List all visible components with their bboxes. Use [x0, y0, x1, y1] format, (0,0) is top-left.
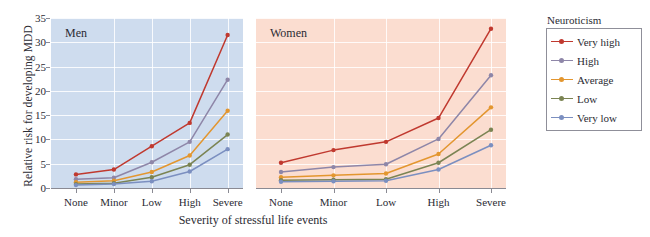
y-tick-mark [46, 115, 50, 116]
y-tick-label: 30 [24, 37, 46, 48]
legend-swatch-icon [551, 75, 573, 85]
series-point [331, 173, 335, 177]
legend-title: Neuroticism [547, 14, 601, 26]
plot-area-men [51, 18, 243, 188]
series-point [331, 165, 335, 169]
x-tick-label: Severe [213, 196, 243, 208]
legend-item-low[interactable]: Low [551, 90, 597, 107]
x-tick-label: None [64, 196, 88, 208]
series-point [112, 182, 116, 186]
legend-item-label: High [577, 55, 599, 67]
series-point [150, 170, 154, 174]
y-tick-mark [46, 18, 50, 19]
x-tick-label: Minor [100, 196, 128, 208]
series-point [331, 148, 335, 152]
legend-item-high[interactable]: High [551, 52, 599, 69]
x-tick-mark [114, 189, 115, 193]
panel-title-women: Women [270, 26, 307, 41]
series-point [74, 183, 78, 187]
x-tick-label: Severe [476, 196, 506, 208]
legend: Neuroticism Very highHighAverageLowVery … [546, 28, 642, 131]
series-point [436, 116, 440, 120]
series-layer [51, 18, 243, 188]
x-axis-title: Severity of stressful life events [0, 213, 506, 228]
series-point [489, 143, 493, 147]
x-axis-line [51, 188, 243, 189]
x-tick-mark [76, 189, 77, 193]
series-point [436, 161, 440, 165]
series-point [150, 179, 154, 183]
x-tick-mark [491, 189, 492, 193]
x-tick-label: Minor [320, 196, 348, 208]
series-point [384, 140, 388, 144]
legend-item-label: Very high [577, 36, 620, 48]
panel-men: Men [51, 18, 243, 188]
series-point [188, 140, 192, 144]
series-point [225, 109, 229, 113]
series-point [112, 167, 116, 171]
series-point [384, 162, 388, 166]
series-point [188, 169, 192, 173]
series-point [489, 73, 493, 77]
y-tick-label: 10 [24, 134, 46, 145]
plot-area-women [256, 18, 506, 188]
series-point [436, 137, 440, 141]
series-point [279, 179, 283, 183]
panel-women: Women [256, 18, 506, 188]
series-point [188, 162, 192, 166]
series-point [225, 77, 229, 81]
series-point [150, 160, 154, 164]
y-tick-label: 5 [24, 158, 46, 169]
series-point [384, 179, 388, 183]
series-point [436, 152, 440, 156]
series-point [436, 167, 440, 171]
figure-container: Relative risk for developing MDD 0510152… [0, 0, 650, 237]
x-tick-label: Low [376, 196, 396, 208]
y-tick-label: 25 [24, 61, 46, 72]
y-tick-mark [46, 188, 50, 189]
legend-swatch-icon [551, 113, 573, 123]
x-tick-label: None [269, 196, 293, 208]
series-point [489, 26, 493, 30]
series-point [384, 171, 388, 175]
legend-item-very-low[interactable]: Very low [551, 109, 617, 126]
y-axis: 05101520253035 [22, 0, 46, 237]
legend-item-very-high[interactable]: Very high [551, 33, 620, 50]
series-point [279, 161, 283, 165]
x-tick-label: High [428, 196, 450, 208]
y-tick-label: 0 [24, 183, 46, 194]
series-point [150, 144, 154, 148]
y-tick-mark [46, 91, 50, 92]
panel-title-men: Men [65, 26, 87, 41]
x-tick-mark [386, 189, 387, 193]
x-tick-label: High [179, 196, 201, 208]
series-point [279, 170, 283, 174]
series-point [150, 175, 154, 179]
legend-item-label: Low [577, 93, 597, 105]
legend-item-label: Average [577, 74, 613, 86]
y-tick-mark [46, 139, 50, 140]
y-tick-label: 35 [24, 13, 46, 24]
x-tick-mark [439, 189, 440, 193]
y-tick-label: 15 [24, 110, 46, 121]
series-line [281, 75, 491, 172]
legend-swatch-icon [551, 37, 573, 47]
series-point [489, 105, 493, 109]
y-tick-mark [46, 42, 50, 43]
x-tick-mark [334, 189, 335, 193]
x-tick-mark [152, 189, 153, 193]
x-tick-label: Low [142, 196, 162, 208]
x-tick-mark [281, 189, 282, 193]
legend-swatch-icon [551, 56, 573, 66]
series-point [188, 153, 192, 157]
y-tick-label: 20 [24, 85, 46, 96]
series-point [225, 132, 229, 136]
x-tick-mark [190, 189, 191, 193]
series-layer [256, 18, 506, 188]
y-tick-mark [46, 67, 50, 68]
legend-swatch-icon [551, 94, 573, 104]
legend-item-average[interactable]: Average [551, 71, 613, 88]
series-point [225, 147, 229, 151]
series-point [489, 128, 493, 132]
series-point [225, 33, 229, 37]
